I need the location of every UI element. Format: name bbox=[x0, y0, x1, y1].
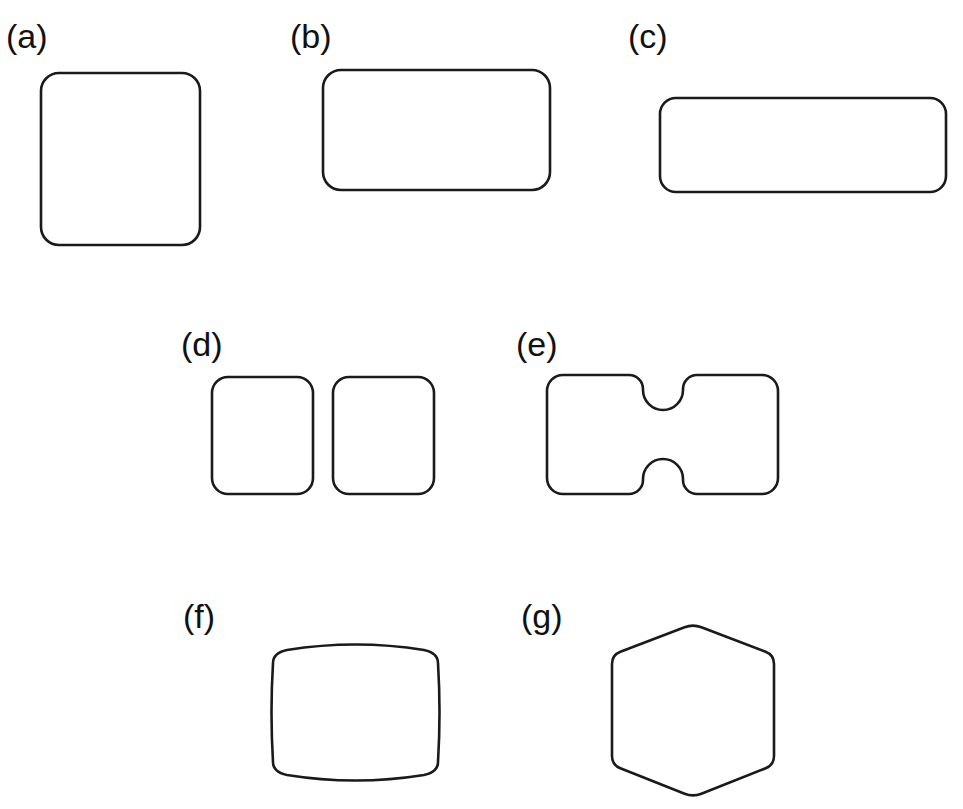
shape-hexagon-g bbox=[612, 626, 774, 796]
figure-canvas: (a) (b) (c) (d) (e) (f) bbox=[0, 0, 963, 809]
panel-label-g: (g) bbox=[521, 597, 563, 635]
shape-rounded-rectangle-d-left bbox=[212, 377, 313, 494]
shape-rounded-square-a bbox=[41, 73, 200, 245]
shape-rounded-rectangle-c bbox=[660, 98, 946, 192]
panel-label-e: (e) bbox=[516, 325, 558, 363]
panel-label-a: (a) bbox=[6, 17, 48, 55]
shape-rounded-rectangle-b bbox=[323, 70, 550, 190]
shape-barrel-f bbox=[272, 645, 440, 781]
shape-figure-svg: (a) (b) (c) (d) (e) (f) bbox=[0, 0, 963, 809]
panel-label-d: (d) bbox=[181, 325, 223, 363]
panel-label-b: (b) bbox=[290, 17, 332, 55]
panel-label-c: (c) bbox=[628, 17, 668, 55]
panel-label-f: (f) bbox=[183, 597, 215, 635]
shape-rounded-rectangle-d-right bbox=[333, 377, 434, 494]
